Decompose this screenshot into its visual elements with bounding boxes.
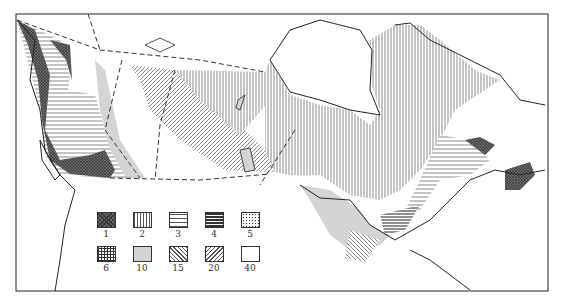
legend-item-10: 10 — [124, 246, 160, 274]
swatch-light-gray — [133, 246, 152, 262]
legend-label: 6 — [88, 263, 124, 274]
legend: 1 2 3 4 5 6 10 15 20 40 — [88, 212, 288, 274]
legend-label: 5 — [232, 229, 268, 240]
legend-item-40: 40 — [232, 246, 268, 274]
legend-item-15: 15 — [160, 246, 196, 274]
swatch-diagonal-backslash — [169, 246, 188, 262]
swatch-dense-horizontal — [205, 212, 224, 228]
swatch-diagonal-slash — [205, 246, 224, 262]
swatch-dark-crosshatch — [97, 212, 116, 228]
legend-item-3: 3 — [160, 212, 196, 240]
legend-label: 3 — [160, 229, 196, 240]
legend-item-5: 5 — [232, 212, 268, 240]
swatch-dots — [241, 212, 260, 228]
legend-label: 10 — [124, 263, 160, 274]
legend-label: 2 — [124, 229, 160, 240]
legend-item-20: 20 — [196, 246, 232, 274]
swatch-white — [241, 246, 260, 262]
swatch-vertical-lines — [133, 212, 152, 228]
legend-label: 40 — [232, 263, 268, 274]
legend-label: 20 — [196, 263, 232, 274]
legend-label: 15 — [160, 263, 196, 274]
legend-item-4: 4 — [196, 212, 232, 240]
swatch-horizontal-lines — [169, 212, 188, 228]
legend-item-2: 2 — [124, 212, 160, 240]
legend-label: 1 — [88, 229, 124, 240]
swatch-grid — [97, 246, 116, 262]
legend-item-1: 1 — [88, 212, 124, 240]
legend-item-6: 6 — [88, 246, 124, 274]
legend-label: 4 — [196, 229, 232, 240]
